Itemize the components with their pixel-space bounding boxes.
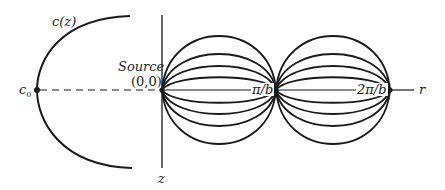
c0-label-sub: 0 [26,90,31,99]
pi-over-b-label: π/b [251,83,274,96]
source-coords: (0,0) [131,74,162,89]
focus-point-2 [387,87,392,92]
r-axis-text: r [419,82,425,97]
source-label: Source [118,60,164,73]
z-axis-label: z [158,172,165,185]
r-axis-label: r [419,83,425,96]
curve-label-text: c(z) [52,14,76,29]
c0-label: c0 [19,83,31,99]
curve-label: c(z) [52,15,76,28]
ray-diagram: c(z) c0 Source (0,0) π/b 2π/b r z [0,0,445,190]
two-pi-over-b-label: 2π/b [356,83,388,96]
source-coords-label: (0,0) [131,75,162,88]
two-pi-over-b-text: 2π/b [357,82,387,97]
c0-point [34,87,40,93]
z-axis-text: z [158,171,165,186]
source-word: Source [118,59,164,74]
pi-over-b-text: π/b [252,82,273,97]
sound-speed-curve [37,16,132,168]
